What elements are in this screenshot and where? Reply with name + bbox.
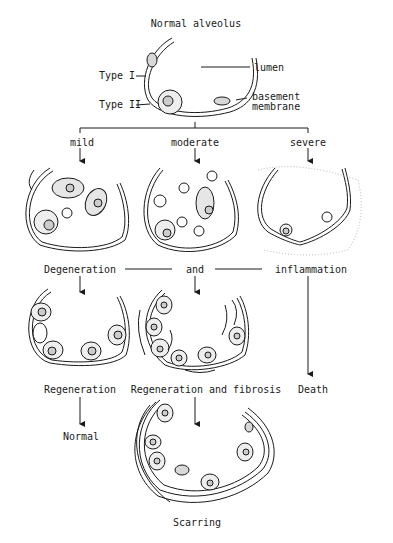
label-and: and (186, 264, 204, 275)
regeneration-alveolus-drawing (29, 289, 130, 366)
label-type-2: Type II (99, 99, 141, 110)
label-death: Death (298, 384, 328, 395)
label-scarring: Scarring (173, 517, 221, 528)
label-membrane: membrane (252, 101, 300, 112)
label-lumen: lumen (254, 62, 284, 73)
severe-alveolus-drawing (258, 167, 362, 255)
label-mild: mild (70, 137, 94, 148)
process-lines (80, 269, 308, 374)
label-degeneration: Degeneration (44, 264, 116, 275)
label-normal: Normal (63, 431, 99, 442)
scarring-alveolus-drawing (135, 400, 274, 502)
normal-alveolus-drawing (136, 38, 258, 116)
label-moderate: moderate (171, 137, 219, 148)
label-regeneration-fibrosis: Regeneration and fibrosis (131, 384, 282, 395)
label-regeneration: Regeneration (44, 384, 116, 395)
title-normal-alveolus: Normal alveolus (151, 18, 241, 29)
mild-alveolus-drawing (26, 168, 129, 251)
label-type-1: Type I (99, 70, 135, 81)
moderate-alveolus-drawing (144, 168, 238, 252)
regeneration-fibrosis-alveolus-drawing (138, 290, 248, 373)
label-inflammation: inflammation (275, 264, 347, 275)
label-severe: severe (290, 137, 326, 148)
outcome-arrows (80, 397, 195, 424)
